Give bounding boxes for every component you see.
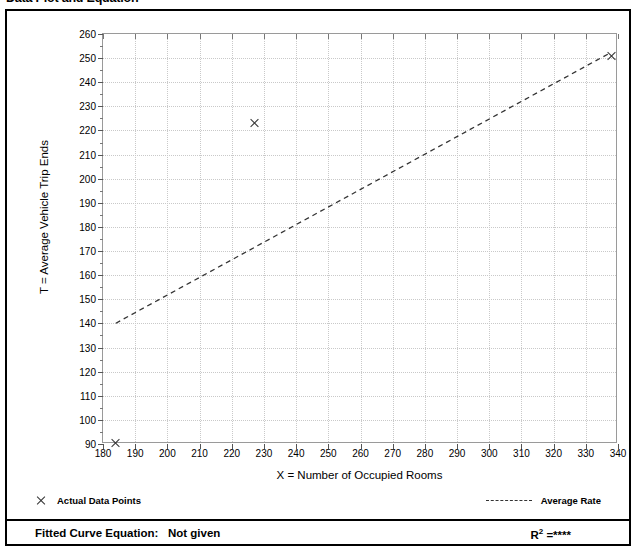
y-axis-tick-label: 180 [79, 221, 96, 232]
x-axis-tick-label: 340 [610, 448, 627, 459]
x-axis-tick-label: 210 [191, 448, 208, 459]
y-axis-tick-label: 200 [79, 173, 96, 184]
y-axis-tick-label: 140 [79, 318, 96, 329]
data-plot-page: Data Plot and Equation T = Average Vehic… [0, 0, 638, 553]
y-axis-tick-label: 100 [79, 414, 96, 425]
y-axis-tick-label: 230 [79, 101, 96, 112]
x-axis-tick-label: 180 [95, 448, 112, 459]
legend-label-average-rate: Average Rate [541, 495, 601, 506]
x-axis-tick-label: 190 [127, 448, 144, 459]
plot-area: 9010011012013014015016017018019020021022… [102, 33, 617, 443]
data-point-marker [249, 118, 260, 129]
y-axis-tick-label: 160 [79, 270, 96, 281]
data-point-marker [606, 50, 617, 61]
x-axis-tick-label: 250 [320, 448, 337, 459]
y-axis-tick-label: 210 [79, 149, 96, 160]
x-axis-tick-label: 230 [256, 448, 273, 459]
x-axis-tick-label: 240 [288, 448, 305, 459]
chart-area: T = Average Vehicle Trip Ends X = Number… [7, 11, 629, 491]
x-axis-top-tick [618, 34, 619, 39]
legend-entry-data-points: Actual Data Points [35, 495, 141, 506]
y-axis-tick-label: 110 [80, 390, 96, 401]
fitted-curve-equation: Fitted Curve Equation: Not given [35, 527, 220, 539]
legend-label-data-points: Actual Data Points [57, 495, 141, 506]
y-axis-tick-label: 240 [79, 77, 96, 88]
dashed-line-icon [486, 500, 532, 501]
y-axis-tick-label: 150 [79, 294, 96, 305]
legend-entry-average-rate: Average Rate [486, 495, 601, 506]
r-squared-label: R [530, 529, 538, 541]
chart-footer: Fitted Curve Equation: Not given R2 =***… [7, 519, 629, 548]
equation-value: Not given [168, 527, 220, 539]
x-axis-tick-label: 300 [481, 448, 498, 459]
y-axis-tick-label: 120 [79, 366, 96, 377]
x-axis-tick-label: 220 [223, 448, 240, 459]
r-squared-exponent: 2 [539, 527, 543, 536]
data-points-layer [103, 34, 616, 442]
x-axis-tick-label: 330 [577, 448, 594, 459]
y-axis-tick-label: 250 [79, 53, 96, 64]
y-axis-tick-label: 190 [79, 197, 96, 208]
x-marker-icon [35, 495, 46, 506]
y-axis-tick-label: 220 [79, 125, 96, 136]
r-squared-value: R2 =**** [530, 527, 571, 541]
x-axis-tick-label: 320 [545, 448, 562, 459]
chart-legend: Actual Data Points Average Rate [7, 491, 629, 519]
y-axis-title: T = Average Vehicle Trip Ends [38, 67, 50, 367]
average-rate-trendline [103, 34, 616, 442]
x-axis-tick-label: 280 [417, 448, 434, 459]
y-axis-tick-label: 170 [79, 246, 96, 257]
x-axis-tick-label: 260 [352, 448, 369, 459]
r-squared-stars: **** [553, 529, 571, 541]
y-axis-tick-label: 260 [79, 29, 96, 40]
x-axis-tick-label: 290 [449, 448, 466, 459]
x-axis-tick-label: 270 [384, 448, 401, 459]
x-axis-tick-label: 310 [513, 448, 530, 459]
x-axis-title: X = Number of Occupied Rooms [102, 469, 617, 481]
y-axis-tick-label: 130 [79, 342, 96, 353]
chart-card: T = Average Vehicle Trip Ends X = Number… [5, 9, 631, 546]
x-axis-tick-label: 200 [159, 448, 176, 459]
equation-label: Fitted Curve Equation: [35, 527, 158, 539]
page-title: Data Plot and Equation [6, 0, 138, 5]
data-point-marker [110, 437, 121, 448]
